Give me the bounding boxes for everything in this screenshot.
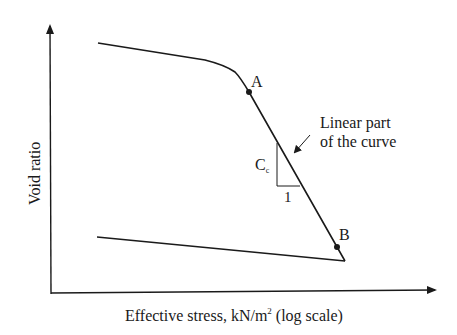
slope-cc-label: Cc [255,156,270,175]
unloading-curve [97,237,345,261]
annotation-line2: of the curve [320,133,396,150]
annotation-arrow [295,135,310,152]
y-axis [50,26,51,294]
loading-curve [98,43,345,261]
y-axis-label: Void ratio [26,142,43,205]
diagram-svg: A B Cc 1 Linear part of the curve Void r… [0,0,457,335]
point-b-marker [334,244,340,250]
point-b-label: B [339,226,350,243]
x-axis [51,290,435,293]
slope-triangle [277,143,300,186]
consolidation-diagram: A B Cc 1 Linear part of the curve Void r… [0,0,457,335]
point-a-label: A [251,73,263,90]
annotation-line1: Linear part [320,114,391,132]
x-axis-label: Effective stress, kN/m2 (log scale) [125,306,343,325]
slope-run-label: 1 [284,189,292,205]
